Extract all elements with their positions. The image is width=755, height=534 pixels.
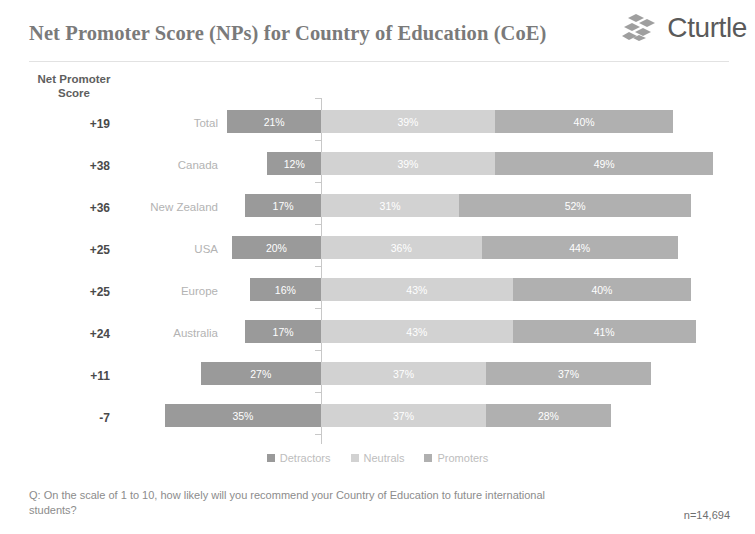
bar-segment-neutrals[interactable]: 43%: [321, 278, 513, 301]
bar-segment-value: 28%: [538, 410, 559, 422]
nps-score-value: +24: [30, 327, 110, 341]
bar-segment-neutrals[interactable]: 31%: [321, 194, 459, 217]
bar-segment-neutrals[interactable]: 39%: [321, 152, 495, 175]
chart-legend: DetractorsNeutralsPromoters: [0, 452, 755, 464]
bar-segment-promoters[interactable]: 40%: [495, 110, 673, 133]
bar-segment-value: 37%: [393, 410, 414, 422]
stacked-bar[interactable]: 12%39%49%: [267, 152, 713, 175]
bar-segment-promoters[interactable]: 41%: [513, 320, 696, 343]
survey-question: Q: On the scale of 1 to 10, how likely w…: [29, 488, 549, 518]
stacked-bar[interactable]: 17%43%41%: [245, 320, 695, 343]
bar-segment-promoters[interactable]: 49%: [495, 152, 714, 175]
bar-segment-value: 17%: [273, 326, 294, 338]
bar-segment-detractors[interactable]: 27%: [201, 362, 321, 385]
chart-row: +25Europe16%43%40%: [0, 272, 755, 314]
chart-row: +36New Zealand17%31%52%: [0, 188, 755, 230]
bar-segment-value: 39%: [397, 158, 418, 170]
category-label: Australia: [112, 327, 218, 339]
bar-segment-value: 27%: [250, 368, 271, 380]
bar-segment-promoters[interactable]: 37%: [486, 362, 651, 385]
bar-segment-detractors[interactable]: 21%: [227, 110, 321, 133]
stacked-bar[interactable]: 27%37%37%: [201, 362, 651, 385]
nps-score-value: +19: [30, 117, 110, 131]
bar-segment-promoters[interactable]: 28%: [486, 404, 611, 427]
bar-segment-detractors[interactable]: 35%: [165, 404, 321, 427]
bar-segment-value: 20%: [266, 242, 287, 254]
chart-row: +25USA20%36%44%: [0, 230, 755, 272]
legend-swatch-icon: [351, 454, 359, 462]
bar-segment-value: 35%: [232, 410, 253, 422]
bar-segment-value: 43%: [406, 284, 427, 296]
category-label: Canada: [112, 159, 218, 171]
bar-segment-detractors[interactable]: 16%: [250, 278, 321, 301]
category-label: Total: [112, 117, 218, 129]
bar-segment-value: 40%: [574, 116, 595, 128]
bar-segment-value: 52%: [565, 200, 586, 212]
bar-segment-value: 37%: [393, 368, 414, 380]
bar-segment-value: 41%: [594, 326, 615, 338]
bar-segment-detractors[interactable]: 17%: [245, 320, 321, 343]
nps-score-value: -7: [30, 411, 110, 425]
bar-segment-value: 17%: [273, 200, 294, 212]
sample-size-label: n=14,694: [684, 509, 730, 521]
bar-segment-value: 49%: [594, 158, 615, 170]
legend-swatch-icon: [267, 454, 275, 462]
nps-score-value: +25: [30, 243, 110, 257]
axis-tick: [315, 98, 321, 99]
bar-segment-value: 31%: [380, 200, 401, 212]
legend-item[interactable]: Neutrals: [351, 452, 405, 464]
legend-label: Detractors: [280, 452, 331, 464]
chart-header: Net Promoter Score (NPs) for Country of …: [0, 0, 755, 62]
chart-row: +19Total21%39%40%: [0, 104, 755, 146]
bar-segment-detractors[interactable]: 17%: [245, 194, 321, 217]
page-title: Net Promoter Score (NPs) for Country of …: [29, 22, 547, 45]
stacked-bar[interactable]: 16%43%40%: [250, 278, 692, 301]
nps-score-value: +25: [30, 285, 110, 299]
chart-row: +38Canada12%39%49%: [0, 146, 755, 188]
bar-segment-value: 37%: [558, 368, 579, 380]
nps-score-value: +38: [30, 159, 110, 173]
nps-score-value: +11: [30, 369, 110, 383]
legend-swatch-icon: [424, 454, 432, 462]
bar-segment-value: 12%: [284, 158, 305, 170]
stacked-bar[interactable]: 21%39%40%: [227, 110, 673, 133]
y-axis-caption-line1: Net Promoter: [18, 72, 130, 86]
bar-segment-value: 16%: [275, 284, 296, 296]
bar-segment-value: 44%: [569, 242, 590, 254]
bar-segment-value: 40%: [591, 284, 612, 296]
bar-segment-neutrals[interactable]: 36%: [321, 236, 482, 259]
chart-row: +11UK27%37%37%: [0, 356, 755, 398]
legend-item[interactable]: Promoters: [424, 452, 488, 464]
category-label: USA: [112, 243, 218, 255]
legend-label: Neutrals: [364, 452, 405, 464]
stacked-bar[interactable]: 17%31%52%: [245, 194, 691, 217]
chart-plot-area: +19Total21%39%40%+38Canada12%39%49%+36Ne…: [0, 96, 755, 446]
bar-segment-promoters[interactable]: 44%: [482, 236, 678, 259]
brand-name: Cturtle: [667, 14, 747, 42]
bar-segment-neutrals[interactable]: 37%: [321, 362, 486, 385]
bar-segment-promoters[interactable]: 52%: [459, 194, 691, 217]
nps-score-value: +36: [30, 201, 110, 215]
brand-logo: Cturtle: [622, 8, 747, 48]
diamond-cluster-icon: [622, 13, 660, 43]
stacked-bar[interactable]: 35%37%28%: [165, 404, 611, 427]
chart-row: -7Other35%37%28%: [0, 398, 755, 440]
legend-label: Promoters: [437, 452, 488, 464]
bar-segment-neutrals[interactable]: 39%: [321, 110, 495, 133]
chart-row: +24Australia17%43%41%: [0, 314, 755, 356]
bar-segment-value: 43%: [406, 326, 427, 338]
bar-segment-detractors[interactable]: 12%: [267, 152, 321, 175]
bar-segment-value: 39%: [397, 116, 418, 128]
bar-segment-neutrals[interactable]: 37%: [321, 404, 486, 427]
stacked-bar[interactable]: 20%36%44%: [232, 236, 678, 259]
category-label: New Zealand: [112, 201, 218, 213]
category-label: Europe: [112, 285, 218, 297]
bar-segment-value: 36%: [391, 242, 412, 254]
bar-segment-value: 21%: [264, 116, 285, 128]
bar-segment-neutrals[interactable]: 43%: [321, 320, 513, 343]
legend-item[interactable]: Detractors: [267, 452, 331, 464]
bar-segment-promoters[interactable]: 40%: [513, 278, 691, 301]
bar-segment-detractors[interactable]: 20%: [232, 236, 321, 259]
header-divider: [29, 61, 729, 62]
